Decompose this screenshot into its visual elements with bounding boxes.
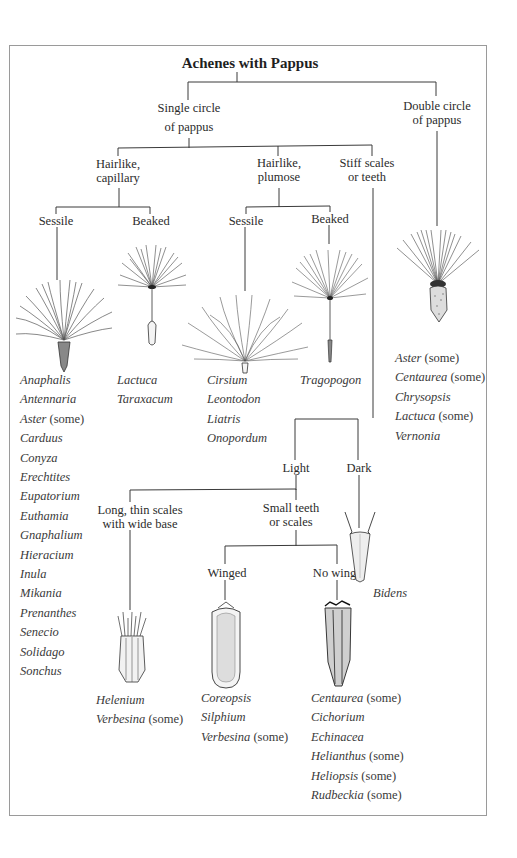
list-item: Sonchus (20, 662, 84, 681)
list-item: Helianthus (some) (311, 747, 404, 766)
label-line: or teeth (340, 170, 395, 184)
list-item: Mikania (20, 584, 84, 603)
list-item: Bidens (373, 584, 407, 603)
label-capillary-beaked: Beaked (132, 214, 169, 228)
label-line: Long, thin scales (97, 503, 182, 517)
list-item: Cichorium (311, 708, 404, 727)
achene-capillary-sessile-illustration (14, 280, 114, 380)
list-item: Aster (some) (20, 410, 84, 429)
list-item: Centaurea (some) (395, 368, 485, 387)
label-stiff-scales: Stiff scales or teeth (340, 156, 395, 184)
list-item: Chrysopsis (395, 388, 485, 407)
list-item: Coreopsis (201, 689, 288, 708)
list-item: Tragopogon (300, 371, 361, 390)
label-line: capillary (96, 171, 140, 185)
list-item: Heliopsis (some) (311, 767, 404, 786)
list-item: Carduus (20, 429, 84, 448)
list-capillary-sessile: Anaphalis Antennaria Aster (some) Carduu… (20, 371, 84, 682)
list-plumose-sessile: Cirsium Leontodon Liatris Onopordum (207, 371, 267, 449)
list-item: Echinacea (311, 728, 404, 747)
list-item: Verbesina (some) (201, 728, 288, 747)
list-item: Erechtites (20, 468, 84, 487)
label-long-thin-scales: Long, thin scales with wide base (97, 503, 182, 531)
list-item: Solidago (20, 643, 84, 662)
list-item: Centaurea (some) (311, 689, 404, 708)
list-no-wings: Centaurea (some) Cichorium Echinacea Hel… (311, 689, 404, 805)
label-hairlike-plumose: Hairlike, plumose (257, 156, 301, 184)
label-line: of pappus (403, 113, 471, 127)
list-item: Vernonia (395, 427, 485, 446)
list-item: Taraxacum (117, 390, 173, 409)
label-line: plumose (257, 170, 301, 184)
list-item: Conyza (20, 449, 84, 468)
label-line: Hairlike, (257, 156, 301, 170)
list-item: Anaphalis (20, 371, 84, 390)
list-item: Rudbeckia (some) (311, 786, 404, 805)
achene-no-wings-illustration (320, 600, 356, 690)
list-item: Lactuca (117, 371, 173, 390)
list-item: Cirsium (207, 371, 267, 390)
achene-double-pappus-illustration (393, 230, 483, 325)
label-winged: Winged (207, 566, 246, 580)
achene-long-thin-scales-illustration (114, 610, 150, 685)
label-line: with wide base (97, 517, 182, 531)
label-capillary-sessile: Sessile (39, 214, 74, 228)
list-item: Silphium (201, 708, 288, 727)
list-item: Gnaphalium (20, 526, 84, 545)
label-light: Light (282, 461, 309, 475)
label-double-circle: Double circle of pappus (403, 99, 471, 127)
list-item: Helenium (96, 691, 183, 710)
label-line: or scales (263, 515, 320, 529)
list-item: Senecio (20, 623, 84, 642)
label-hairlike-capillary: Hairlike, capillary (96, 157, 140, 185)
list-item: Leontodon (207, 390, 267, 409)
list-item: Lactuca (some) (395, 407, 485, 426)
list-dark: Bidens (373, 584, 407, 603)
label-plumose-beaked: Beaked (311, 212, 348, 226)
list-item: Euthamia (20, 507, 84, 526)
list-item: Liatris (207, 410, 267, 429)
list-item: Eupatorium (20, 487, 84, 506)
achene-dark-bidens-illustration (342, 510, 378, 585)
label-dark: Dark (347, 461, 372, 475)
list-item: Antennaria (20, 390, 84, 409)
label-line: of pappus (158, 120, 221, 134)
achene-capillary-beaked-illustration (116, 245, 188, 350)
list-item: Onopordum (207, 429, 267, 448)
achene-plumose-beaked-illustration (290, 250, 370, 365)
label-line: Double circle (403, 99, 471, 113)
label-small-teeth: Small teeth or scales (263, 501, 320, 529)
label-single-circle: Single circle of pappus (158, 101, 221, 134)
list-capillary-beaked: Lactuca Taraxacum (117, 371, 173, 410)
list-winged: Coreopsis Silphium Verbesina (some) (201, 689, 288, 747)
list-item: Aster (some) (395, 349, 485, 368)
diagram-title: Achenes with Pappus (182, 55, 319, 72)
label-line: Single circle (158, 101, 221, 115)
label-plumose-sessile: Sessile (229, 214, 264, 228)
list-item: Verbesina (some) (96, 710, 183, 729)
list-long-thin-scales: Helenium Verbesina (some) (96, 691, 183, 730)
list-item: Inula (20, 565, 84, 584)
list-double-circle: Aster (some) Centaurea (some) Chrysopsis… (395, 349, 485, 446)
list-item: Hieracium (20, 546, 84, 565)
label-line: Hairlike, (96, 157, 140, 171)
label-line: Small teeth (263, 501, 320, 515)
achene-winged-illustration (204, 600, 248, 690)
label-line: Stiff scales (340, 156, 395, 170)
list-item: Prenanthes (20, 604, 84, 623)
list-plumose-beaked: Tragopogon (300, 371, 361, 390)
